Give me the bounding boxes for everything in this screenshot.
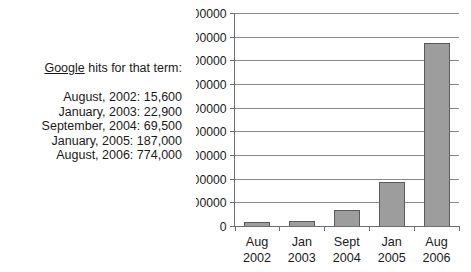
- x-tick-label-year: 2003: [288, 251, 316, 265]
- y-tick-label: 900000: [196, 7, 227, 21]
- x-tick-label-year: 2004: [333, 251, 361, 265]
- y-tick-label: 400000: [196, 125, 227, 139]
- y-tick-label: 100000: [196, 196, 227, 210]
- caption-heading: Google hits for that term:: [0, 60, 196, 76]
- y-tick-label: 700000: [196, 54, 227, 68]
- x-tick-label-year: 2002: [243, 251, 271, 265]
- list-item: August, 2002: 15,600: [0, 90, 182, 105]
- y-tick-label: 500000: [196, 102, 227, 116]
- bar: [425, 44, 450, 227]
- x-tick-label-month: Aug: [246, 235, 268, 249]
- bar: [380, 183, 405, 227]
- x-tick-label-month: Jan: [292, 235, 312, 249]
- x-tick-label-year: 2005: [378, 251, 406, 265]
- y-tick-label: 800000: [196, 31, 227, 45]
- bar: [335, 211, 360, 227]
- hits-list: August, 2002: 15,600 January, 2003: 22,9…: [0, 90, 196, 163]
- y-tick-label: 300000: [196, 149, 227, 163]
- y-axis-tick-labels: 9000008000007000006000005000004000003000…: [196, 7, 227, 234]
- y-tick-label: 0: [220, 220, 227, 234]
- y-axis-tickmarks: [230, 14, 235, 227]
- y-tick-label: 200000: [196, 173, 227, 187]
- list-item: August, 2006: 774,000: [0, 148, 182, 163]
- list-item: January, 2005: 187,000: [0, 134, 182, 149]
- x-tick-label-month: Aug: [425, 235, 447, 249]
- caption-block: Google hits for that term: August, 2002:…: [0, 60, 196, 163]
- list-item: January, 2003: 22,900: [0, 105, 182, 120]
- chart-bars: [245, 44, 450, 227]
- bar: [245, 223, 270, 227]
- google-term-label: Google: [44, 61, 84, 75]
- list-item: September, 2004: 69,500: [0, 119, 182, 134]
- caption-heading-rest: hits for that term:: [85, 61, 182, 75]
- x-tick-label-year: 2006: [423, 251, 451, 265]
- y-tick-label: 600000: [196, 78, 227, 92]
- bar-chart: 9000008000007000006000005000004000003000…: [196, 0, 471, 272]
- x-tick-label-month: Sept: [334, 235, 360, 249]
- x-axis-tick-labels: Aug2002Jan2003Sept2004Jan2005Aug2006: [243, 235, 451, 265]
- x-tick-label-month: Jan: [381, 235, 401, 249]
